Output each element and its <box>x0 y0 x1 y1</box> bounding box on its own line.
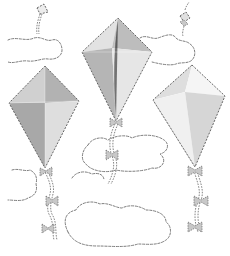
bow-icon <box>42 224 54 233</box>
right-kite-tail <box>188 166 208 232</box>
bow-icon <box>40 167 52 176</box>
cloud-top-left <box>8 38 62 63</box>
bow-icon <box>188 166 202 176</box>
small-kite-right <box>180 2 190 36</box>
left-kite-tail <box>40 167 58 240</box>
cloud-bottom-center <box>65 202 170 247</box>
bow-icon <box>194 196 208 206</box>
kite-scene <box>0 0 230 256</box>
right-kite <box>153 65 225 232</box>
bow-icon <box>188 222 202 232</box>
middle-kite-tail <box>106 118 122 184</box>
middle-kite <box>82 18 152 184</box>
cloud-bottom-left <box>8 169 37 200</box>
small-kite-left <box>37 4 48 34</box>
cloud-middle <box>72 135 167 180</box>
bow-icon <box>106 150 118 160</box>
